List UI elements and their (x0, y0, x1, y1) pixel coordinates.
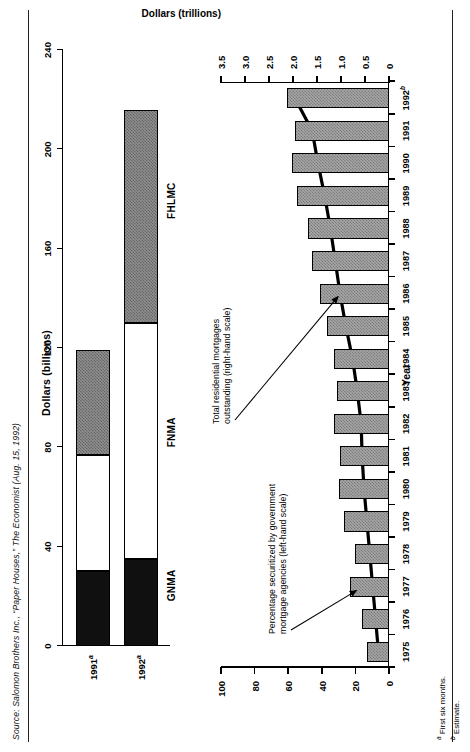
chart1-x-tick-label: 200 (42, 141, 53, 157)
footnote-b-marker: b (449, 736, 456, 740)
chart2-bar (340, 446, 389, 466)
chart1-bar-row: 1991a (76, 50, 110, 646)
chart2-x-tick (389, 569, 395, 571)
chart1-segment-fhlmc (124, 110, 158, 324)
chart1-x-tick (57, 49, 63, 50)
chart1-x-tick (57, 347, 63, 348)
chart1-segment-fnma (124, 323, 158, 559)
chart2-left-tick-label: 20 (350, 681, 361, 692)
chart2-bar (350, 577, 389, 597)
chart2-bar (362, 609, 389, 629)
annotation-right-line1: Total residential mortgages (211, 308, 222, 424)
chart2-left-tick (321, 667, 323, 674)
chart2-bar (334, 349, 389, 369)
chart2-bar (344, 511, 389, 531)
chart1-x-tick (57, 446, 63, 447)
chart2-right-tick-label: 3.0 (240, 56, 251, 69)
chart2-x-tick (389, 341, 395, 343)
chart2-x-tick (389, 146, 395, 148)
chart2-left-tick-label: 60 (283, 681, 294, 692)
chart1-series-label-fhlmc: FHLMC (166, 182, 177, 219)
chart2-right-tick (316, 76, 318, 83)
chart2-left-tick-label: 80 (249, 681, 260, 692)
chart2-y-axis-left (221, 667, 389, 669)
chart2-plot-area: 02040608010000.51.01.52.02.53.03.5197519… (221, 82, 389, 668)
chart2-left-tick (220, 667, 222, 674)
chart1-category-label: 1992a (135, 655, 147, 680)
chart2-right-tick-label: 0.5 (360, 56, 371, 69)
chart2-right-tick-label: 0 (384, 64, 395, 69)
chart2-right-tick-label: 2.0 (288, 56, 299, 69)
chart2-right-tick-label: 3.5 (216, 56, 227, 69)
chart2-x-tick (389, 81, 395, 83)
chart1-bar-row: 1992a (124, 50, 158, 646)
chart2-x-axis-title: Year (400, 82, 412, 668)
footnote-a: a First six months. (434, 676, 448, 740)
chart2-right-tick (220, 76, 222, 83)
annotation-right-line2: outstanding (right-hand scale) (222, 308, 233, 424)
footnote-b-text: Estimate. (452, 701, 461, 734)
chart2-right-tick (340, 76, 342, 83)
chart2-bar (320, 284, 389, 304)
chart1-x-tick-label: 240 (42, 42, 53, 58)
chart2-x-tick (389, 504, 395, 506)
chart2-x-tick (389, 178, 395, 180)
chart1-category-label: 1991a (87, 655, 99, 680)
chart2-bar (292, 153, 389, 173)
stacked-bar-chart: Dollars (billions) 040801201602002401991… (40, 4, 200, 742)
chart1-x-tick-label: 160 (42, 241, 53, 257)
chart2-right-tick-label: 1.5 (312, 56, 323, 69)
chart1-x-tick (57, 248, 63, 249)
chart2-right-tick-label: 1.0 (336, 56, 347, 69)
chart2-x-tick (389, 406, 395, 408)
chart1-plot-area: 040801201602002401991a1992aGNMAFNMAFHLMC (62, 50, 180, 646)
chart2-left-tick (355, 667, 357, 674)
chart2-x-tick (389, 113, 395, 115)
chart2-right-tick (268, 76, 270, 83)
bottom-divider-rule (452, 10, 453, 742)
chart2-x-tick (389, 308, 395, 310)
chart1-x-tick (57, 645, 63, 646)
annotation-left-line1: Percentage securitized by government (267, 484, 278, 634)
footnote-a-text: First six months. (438, 676, 447, 734)
chart2-bar (297, 186, 389, 206)
chart2-trend-line (295, 98, 379, 651)
chart2-bar (367, 642, 389, 662)
chart2-x-tick (389, 471, 395, 473)
chart1-series-label-gnma: GNMA (166, 570, 177, 602)
chart2-x-tick (389, 243, 395, 245)
chart1-segment-fnma (76, 455, 110, 572)
chart2-bar (327, 316, 389, 336)
chart2-right-tick (244, 76, 246, 83)
chart2-x-tick (389, 634, 395, 636)
chart2-bar (287, 88, 389, 108)
bar-line-combo-chart: Dollars (trillions) 02040608010000.51.01… (205, 4, 450, 742)
annotation-percentage-securitized: Percentage securitized by government mor… (267, 484, 289, 634)
chart2-right-tick (292, 76, 294, 83)
chart2-bar (355, 544, 389, 564)
annotation-total-mortgages: Total residential mortgages outstanding … (211, 308, 233, 424)
chart2-left-tick-label: 40 (316, 681, 327, 692)
rotated-page-wrapper: Source: Salomon Brothers Inc., “Paper Ho… (0, 0, 470, 752)
chart2-x-tick (389, 211, 395, 213)
chart1-segment-fhlmc (76, 351, 110, 455)
chart2-bar (337, 381, 389, 401)
chart2-bar (312, 251, 389, 271)
chart2-x-tick (389, 439, 395, 441)
chart2-left-tick (388, 667, 390, 674)
chart1-segment-gnma (124, 559, 158, 646)
chart1-series-label-fnma: FNMA (166, 417, 177, 447)
chart1-x-tick (57, 148, 63, 149)
chart2-right-axis-title: Dollars (trillions) (142, 8, 221, 19)
chart2-bar (308, 218, 389, 238)
chart2-bar (334, 414, 389, 434)
chart1-title: Dollars (billions) (40, 4, 52, 742)
chart1-x-tick-label: 40 (42, 541, 53, 552)
chart1-x-tick-label: 80 (42, 442, 53, 453)
chart2-right-tick (364, 76, 366, 83)
chart2-x-tick (389, 667, 395, 669)
chart2-x-tick (389, 276, 395, 278)
footnotes: a First six months. b Estimate. (434, 676, 462, 740)
chart1-x-tick-label: 120 (42, 340, 53, 356)
footnote-a-marker: a (435, 736, 442, 740)
